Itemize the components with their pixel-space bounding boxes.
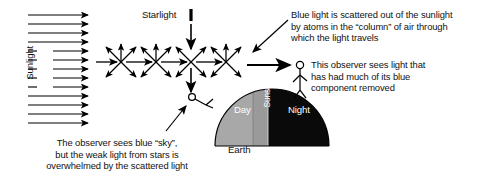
day-observer-annotation: The observer sees blue “sky”, but the we… <box>8 137 226 172</box>
sunset-observer-annotation: This observer sees light that has had mu… <box>311 59 425 94</box>
observer-day-figure <box>189 94 213 108</box>
sunlight-label: Sunlight <box>24 28 36 98</box>
scatter-node <box>141 44 171 77</box>
observer-sunset-figure <box>293 61 307 98</box>
earth-label: Earth <box>228 144 250 156</box>
leader-line-bottom-note <box>166 106 186 131</box>
scatter-node <box>211 44 241 77</box>
blue-scattering-annotation: Blue light is scattered out of the sunli… <box>291 9 452 44</box>
sunlight-ray-bundle <box>28 15 88 123</box>
leader-line-blue-note <box>253 20 288 52</box>
starlight-label: Starlight <box>142 9 176 21</box>
scatter-node <box>106 44 136 77</box>
sunset-label: Sunset <box>262 75 274 115</box>
night-label: Night <box>288 104 310 116</box>
diagram-canvas: Sunlight Starlight Day Night Sunset Eart… <box>0 0 503 178</box>
day-label: Day <box>234 104 251 116</box>
earth-hemisphere <box>215 86 338 150</box>
